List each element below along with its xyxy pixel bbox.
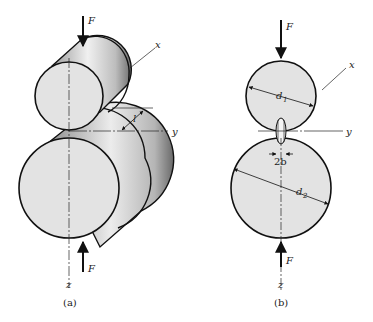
force-label-top-a: F — [87, 15, 96, 26]
caption-a: (a) — [63, 297, 77, 308]
svg-text:2: 2 — [302, 192, 308, 200]
panel-a: F F x y l z (a) — [19, 15, 178, 308]
axis-x-label-b: x — [349, 59, 355, 70]
svg-text:d: d — [276, 90, 282, 101]
axis-z-label-b: z — [277, 279, 284, 290]
length-label-a: l — [133, 113, 136, 124]
axis-y-label-b: y — [345, 126, 352, 137]
contact-diagram: F F x y l z (a) — [0, 0, 373, 322]
contact-width-label: 2b — [274, 156, 287, 167]
force-label-bottom-a: F — [87, 263, 96, 274]
bottom-cylinder — [19, 102, 174, 247]
axis-x-label-a: x — [155, 39, 161, 50]
force-label-bottom-b: F — [285, 255, 294, 266]
x-axis-line-b — [322, 68, 346, 90]
caption-b: (b) — [274, 297, 288, 308]
axis-z-label-a: z — [65, 279, 72, 290]
axis-y-label-a: y — [171, 126, 178, 137]
panel-b: F F x y z d 1 d 2 2b (b) — [231, 20, 355, 308]
force-label-top-b: F — [285, 21, 294, 32]
svg-text:d: d — [296, 186, 302, 197]
x-axis-line — [130, 48, 155, 68]
svg-text:1: 1 — [283, 96, 287, 104]
